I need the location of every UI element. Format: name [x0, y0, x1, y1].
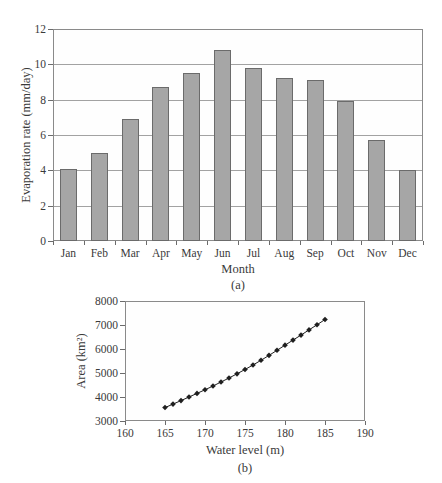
figure-two-panel-chart: Evaporation rate (mm/day) Month (a) Area…	[0, 0, 442, 483]
data-point-marker	[170, 401, 176, 407]
data-point-marker	[162, 405, 168, 411]
data-point-marker	[202, 387, 208, 393]
month-label: Jan	[52, 246, 84, 260]
x-tick-label: 175	[231, 426, 259, 440]
data-point-marker	[234, 371, 240, 377]
bar	[122, 119, 139, 241]
y-axis-tick	[48, 170, 53, 171]
data-point-marker	[322, 317, 328, 323]
bar	[91, 153, 108, 241]
x-axis-tick	[207, 241, 208, 245]
data-point-marker	[242, 367, 248, 373]
y-tick-label: 4000	[84, 390, 118, 404]
x-axis-tick	[392, 241, 393, 245]
x-tick-label: 185	[311, 426, 339, 440]
gridline	[54, 170, 422, 171]
x-axis-tick	[205, 421, 206, 425]
data-point-marker	[226, 375, 232, 381]
subfigure-caption-b: (b)	[125, 461, 365, 476]
x-axis-tick	[238, 241, 239, 245]
y-tick-label: 5000	[84, 366, 118, 380]
month-label: Mar	[114, 246, 146, 260]
month-label: Jul	[237, 246, 269, 260]
bar	[276, 78, 293, 241]
x-axis-tick	[115, 241, 116, 245]
data-point-marker	[210, 383, 216, 389]
x-axis-tick	[361, 241, 362, 245]
bar	[214, 50, 231, 241]
data-point-marker	[266, 353, 272, 359]
month-label: May	[176, 246, 208, 260]
y-axis-tick	[48, 100, 53, 101]
gridline	[54, 206, 422, 207]
subfigure-caption-a: (a)	[53, 278, 423, 293]
bar	[152, 87, 169, 241]
x-axis-tick	[285, 421, 286, 425]
data-point-marker	[282, 342, 288, 348]
x-axis-tick	[176, 241, 177, 245]
bar	[337, 101, 354, 241]
data-point-marker	[218, 379, 224, 385]
y-tick-label: 2	[20, 199, 46, 213]
bar	[368, 140, 385, 241]
x-tick-label: 165	[151, 426, 179, 440]
x-axis-label-water-level: Water level (m)	[125, 443, 365, 458]
x-axis-tick	[84, 241, 85, 245]
x-axis-tick	[423, 241, 424, 245]
x-axis-tick	[365, 421, 366, 425]
x-tick-label: 160	[111, 426, 139, 440]
y-tick-label: 4	[20, 163, 46, 177]
x-axis-tick	[146, 241, 147, 245]
x-tick-label: 180	[271, 426, 299, 440]
month-label: Jun	[207, 246, 239, 260]
y-axis-tick	[48, 64, 53, 65]
x-axis-tick	[165, 421, 166, 425]
data-point-marker	[250, 362, 256, 368]
bar	[183, 73, 200, 241]
month-label: Oct	[330, 246, 362, 260]
x-axis-tick	[331, 241, 332, 245]
gridline	[54, 64, 422, 65]
data-point-marker	[194, 391, 200, 397]
y-axis-tick	[48, 29, 53, 30]
x-axis-tick	[300, 241, 301, 245]
line-series-canvas	[125, 301, 365, 421]
x-axis-tick	[269, 241, 270, 245]
data-point-marker	[178, 398, 184, 404]
x-axis-tick	[325, 421, 326, 425]
gridline	[54, 135, 422, 136]
data-point-marker	[290, 337, 296, 343]
y-tick-label: 12	[20, 22, 46, 36]
bar	[245, 68, 262, 241]
x-axis-tick	[53, 241, 54, 245]
y-tick-label: 10	[20, 57, 46, 71]
data-point-marker	[258, 357, 264, 363]
y-axis-tick	[48, 135, 53, 136]
x-axis-label-month: Month	[53, 262, 423, 277]
data-point-marker	[298, 332, 304, 338]
month-label: Apr	[145, 246, 177, 260]
x-tick-label: 190	[351, 426, 379, 440]
bar	[60, 169, 77, 241]
data-point-marker	[186, 394, 192, 400]
gridline	[54, 100, 422, 101]
y-tick-label: 8	[20, 93, 46, 107]
x-axis-tick	[125, 421, 126, 425]
month-label: Sep	[299, 246, 331, 260]
month-label: Nov	[361, 246, 393, 260]
x-tick-label: 170	[191, 426, 219, 440]
month-label: Aug	[268, 246, 300, 260]
data-point-marker	[274, 348, 280, 354]
y-axis-tick	[48, 206, 53, 207]
data-point-marker	[314, 322, 320, 328]
y-tick-label: 6	[20, 128, 46, 142]
y-tick-label: 7000	[84, 318, 118, 332]
y-tick-label: 6000	[84, 342, 118, 356]
month-label: Dec	[392, 246, 424, 260]
month-label: Feb	[83, 246, 115, 260]
y-tick-label: 8000	[84, 294, 118, 308]
bar	[399, 170, 416, 241]
data-point-marker	[306, 327, 312, 333]
y-tick-label: 0	[20, 234, 46, 248]
x-axis-tick	[245, 421, 246, 425]
